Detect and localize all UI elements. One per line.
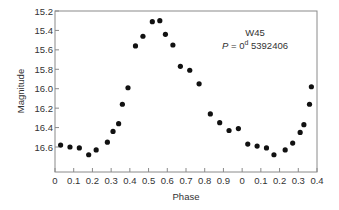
light-curve-chart: 15.215.415.615.816.016.216.416.6 00.10.2… (0, 0, 339, 210)
x-tick-label: 0.1 (67, 175, 80, 186)
x-tick-label: 0.2 (86, 175, 99, 186)
period-value: 5392406 (248, 40, 288, 51)
data-point (58, 142, 63, 147)
data-point (255, 143, 260, 148)
star-name-label: W45 (245, 27, 265, 38)
data-point (77, 145, 82, 150)
data-point (67, 144, 72, 149)
data-point (197, 81, 202, 86)
data-point (309, 84, 314, 89)
x-tick-label: 0.7 (179, 175, 192, 186)
data-point (140, 34, 145, 39)
data-point (226, 128, 231, 133)
data-point (178, 64, 183, 69)
data-point (125, 85, 130, 90)
period-equals: = 0 (228, 40, 244, 51)
y-tick-label: 15.2 (35, 6, 54, 17)
y-tick-label: 16.0 (35, 83, 54, 94)
data-point (116, 121, 121, 126)
data-point (187, 68, 192, 73)
data-point (157, 18, 162, 23)
data-point (217, 120, 222, 125)
data-point (307, 102, 312, 107)
x-tick-label: 0 (239, 175, 244, 186)
x-tick-label: 0.3 (105, 175, 118, 186)
data-point (86, 152, 91, 157)
data-points (58, 18, 314, 157)
y-tick-label: 16.6 (35, 142, 54, 153)
y-tick-label: 16.4 (35, 122, 54, 133)
data-point (94, 147, 99, 152)
data-point (283, 147, 288, 152)
data-point (150, 19, 155, 24)
x-tick-label: 0.8 (198, 175, 211, 186)
data-point (170, 42, 175, 47)
x-tick-label: 0.2 (273, 175, 286, 186)
y-tick-label: 15.8 (35, 64, 54, 75)
period-label: P = 0d 5392406 (222, 39, 288, 51)
x-tick-label: 0.9 (217, 175, 230, 186)
data-point (120, 102, 125, 107)
x-tick-label: 0.4 (123, 175, 136, 186)
plot-frame (55, 11, 317, 172)
data-point (110, 129, 115, 134)
data-point (163, 32, 168, 37)
data-point (105, 140, 110, 145)
y-axis-title: Magnitude (15, 69, 26, 113)
x-axis: 00.10.20.30.40.50.60.70.80.900.10.20.30.… (52, 168, 323, 186)
data-point (236, 126, 241, 131)
x-tick-label: 0 (52, 175, 57, 186)
x-tick-label: 0.5 (142, 175, 155, 186)
x-tick-label: 0.4 (310, 175, 323, 186)
data-point (264, 145, 269, 150)
x-axis-title: Phase (173, 191, 200, 202)
data-point (133, 43, 138, 48)
y-tick-label: 15.6 (35, 44, 54, 55)
y-tick-label: 16.2 (35, 103, 54, 114)
data-point (208, 111, 213, 116)
x-tick-label: 0.6 (161, 175, 174, 186)
x-tick-label: 0.1 (254, 175, 267, 186)
data-point (245, 141, 250, 146)
data-point (298, 130, 303, 135)
y-tick-label: 15.4 (35, 25, 54, 36)
data-point (271, 152, 276, 157)
data-point (290, 141, 295, 146)
data-point (301, 122, 306, 127)
x-tick-label: 0.3 (292, 175, 305, 186)
